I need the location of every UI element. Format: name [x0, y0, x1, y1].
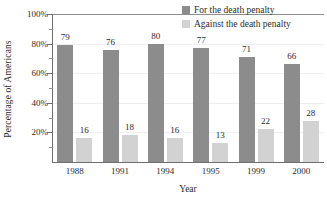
y-axis-tick-labels: 20%40%60%80%100% [17, 0, 50, 178]
x-tick-label: 1991 [97, 166, 142, 176]
legend-label: Against the death penalty [194, 19, 291, 29]
legend-item: Against the death penalty [182, 17, 324, 30]
bar [57, 45, 73, 162]
bar-value-label: 76 [96, 37, 126, 47]
bar [103, 50, 119, 162]
bar [167, 138, 183, 162]
y-tick-label: 100% [27, 9, 48, 19]
bar-value-label: 77 [186, 35, 216, 45]
y-tick-label: 60% [32, 68, 49, 78]
chart-legend: For the death penaltyAgainst the death p… [182, 3, 324, 31]
legend-label: For the death penalty [194, 5, 274, 15]
y-axis-title-text: Percentage of Americans [3, 40, 13, 137]
bar-value-label: 16 [160, 125, 190, 135]
bar [239, 57, 255, 162]
bar [303, 121, 319, 162]
bar-chart: Percentage of Americans 20%40%60%80%100%… [0, 0, 327, 212]
bar [258, 129, 274, 162]
plot-area: 791676188016771371226628 [52, 14, 324, 163]
bar [76, 138, 92, 162]
legend-item: For the death penalty [182, 3, 324, 16]
bar-value-label: 80 [141, 31, 171, 41]
bar-value-label: 71 [232, 44, 262, 54]
bar-value-label: 22 [251, 116, 281, 126]
bar-value-label: 28 [296, 108, 326, 118]
bar-value-label: 13 [205, 130, 235, 140]
x-axis-tick-labels: 198819911994199519992000 [52, 166, 324, 180]
bar [122, 135, 138, 162]
bar-value-label: 79 [50, 32, 80, 42]
x-axis-title: Year [52, 184, 324, 194]
x-tick-label: 2000 [279, 166, 324, 176]
y-axis-title: Percentage of Americans [0, 0, 16, 178]
bar-value-label: 66 [277, 51, 307, 61]
bar [193, 48, 209, 162]
y-tick-label: 80% [32, 39, 49, 49]
y-tick-label: 20% [32, 127, 49, 137]
legend-swatch-icon [182, 6, 190, 14]
x-tick-label: 1995 [188, 166, 233, 176]
bars-layer: 791676188016771371226628 [52, 14, 324, 163]
x-tick-label: 1999 [233, 166, 278, 176]
bar [148, 44, 164, 162]
x-tick-label: 1988 [52, 166, 97, 176]
x-tick-label: 1994 [143, 166, 188, 176]
bar [212, 143, 228, 162]
bar-value-label: 16 [69, 125, 99, 135]
legend-swatch-icon [182, 20, 190, 28]
bar-value-label: 18 [115, 122, 145, 132]
y-tick-label: 40% [32, 98, 49, 108]
